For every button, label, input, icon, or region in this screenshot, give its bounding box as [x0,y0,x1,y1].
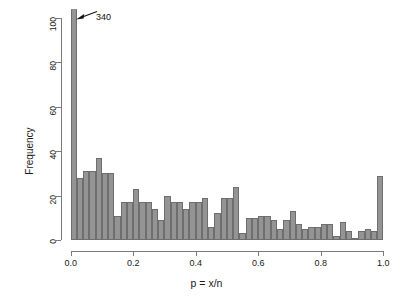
x-axis-title: p = x/n [0,277,413,289]
y-tick-label: 60 [48,106,58,115]
x-tick-label: 0.2 [127,258,140,268]
histogram-figure: Frequency p = x/n 020406080100 0.00.20.4… [0,0,413,302]
y-tick-label: 40 [48,150,58,159]
x-tick-mark [71,251,72,256]
plot-area [71,8,384,240]
histogram-bars [71,8,384,240]
y-tick-label: 80 [48,61,58,70]
x-tick-label: 0.6 [252,258,265,268]
x-tick-mark [196,251,197,256]
x-tick-label: 0.8 [315,258,328,268]
x-tick-mark [383,251,384,256]
y-axis-title: Frequency [24,127,35,174]
y-tick-label: 20 [48,195,58,204]
x-axis-line [71,251,384,252]
x-tick-mark [258,251,259,256]
x-tick-label: 0.4 [189,258,202,268]
histogram-bar [233,187,239,240]
x-tick-mark [133,251,134,256]
y-axis-line [61,18,62,240]
x-tick-mark [321,251,322,256]
x-tick-label: 1.0 [377,258,390,268]
y-tick-label: 100 [48,17,58,31]
y-tick-label: 0 [48,239,58,244]
histogram-bar [377,176,383,240]
x-tick-label: 0.0 [64,258,77,268]
